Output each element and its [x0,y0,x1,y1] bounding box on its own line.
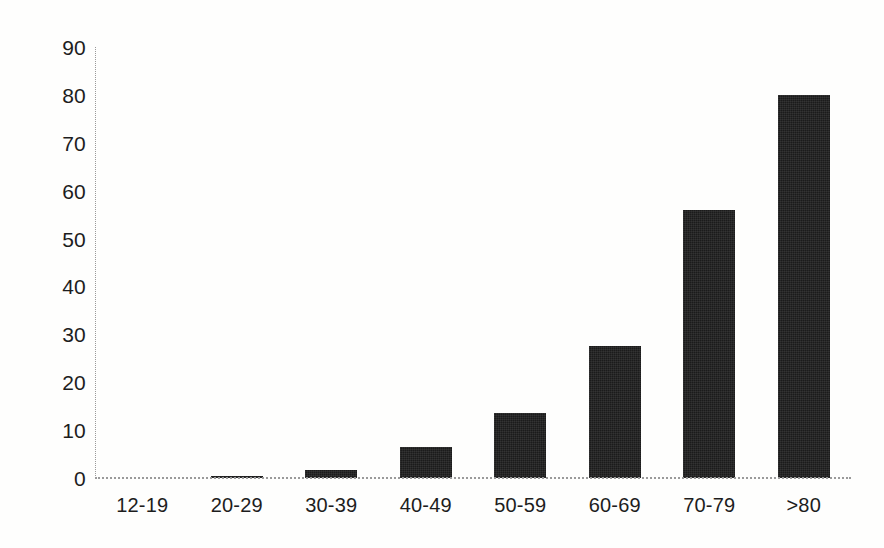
bar-slot [757,47,852,478]
y-axis: 0102030405060708090 [30,30,86,490]
y-tick-label: 70 [30,132,86,153]
bar[interactable] [494,413,546,478]
y-tick-label: 30 [30,324,86,345]
bar-slot [379,47,474,478]
bar[interactable] [683,210,735,478]
x-tick-label: 20-29 [211,494,263,516]
bar-slot [284,47,379,478]
x-tick-label: 50-59 [494,494,546,516]
x-tick-label: 70-79 [683,494,735,516]
y-tick-label: 0 [30,468,86,489]
bar-slot [662,47,757,478]
x-tick-label: 12-19 [116,494,168,516]
y-tick-label: 50 [30,228,86,249]
bar[interactable] [589,346,641,478]
bar-slot [190,47,285,478]
x-tick-label: 60-69 [589,494,641,516]
y-tick-label: 20 [30,372,86,393]
bar-slot [95,47,190,478]
y-tick-label: 80 [30,84,86,105]
x-axis: 12-1920-2930-3940-4950-5960-6970-79>80 [95,494,851,528]
y-tick-label: 10 [30,420,86,441]
bar-slot [473,47,568,478]
bar-chart: 0102030405060708090 12-1920-2930-3940-49… [0,0,884,548]
bar[interactable] [400,447,452,478]
x-axis-line [95,477,851,479]
y-tick-label: 60 [30,180,86,201]
y-tick-label: 90 [30,37,86,58]
bar[interactable] [778,95,830,478]
bar-slot [568,47,663,478]
plot-area [95,47,851,478]
x-tick-label: 30-39 [305,494,357,516]
x-tick-label: 40-49 [400,494,452,516]
x-tick-label: >80 [786,494,821,516]
y-tick-label: 40 [30,276,86,297]
